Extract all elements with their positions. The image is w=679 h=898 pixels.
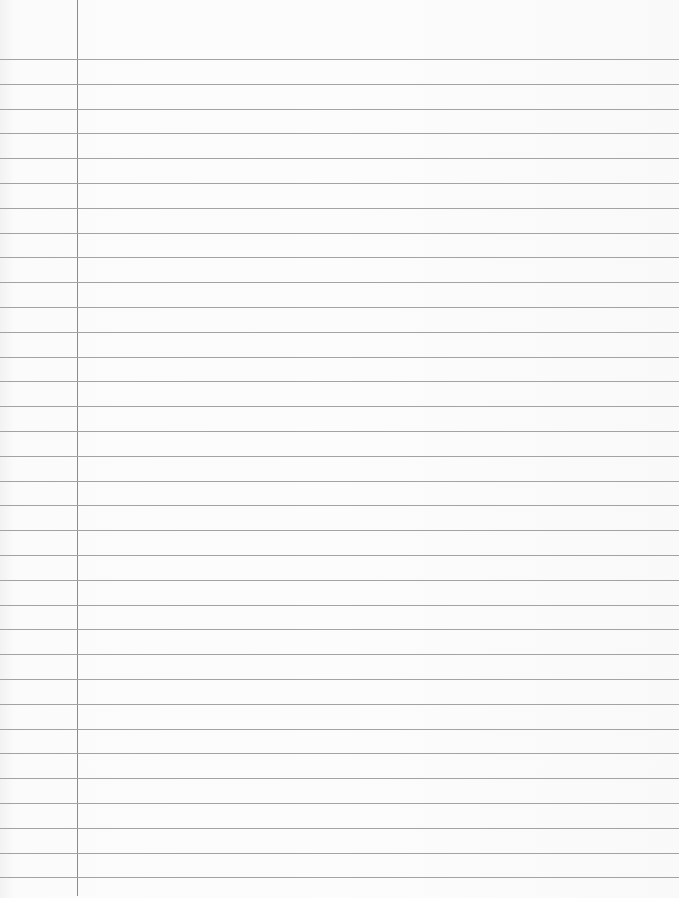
rule-line xyxy=(0,431,679,432)
rule-line xyxy=(0,332,679,333)
rule-line xyxy=(0,729,679,730)
rule-line xyxy=(0,555,679,556)
rule-line xyxy=(0,357,679,358)
rule-line xyxy=(0,828,679,829)
rule-line xyxy=(0,158,679,159)
rule-line xyxy=(0,282,679,283)
rule-line xyxy=(0,530,679,531)
rule-line xyxy=(0,679,679,680)
rule-line xyxy=(0,109,679,110)
rule-line xyxy=(0,84,679,85)
rule-line xyxy=(0,183,679,184)
rule-line xyxy=(0,629,679,630)
rule-line xyxy=(0,481,679,482)
margin-line xyxy=(77,0,78,896)
rule-line xyxy=(0,208,679,209)
rule-line xyxy=(0,505,679,506)
rule-line xyxy=(0,654,679,655)
rule-line xyxy=(0,456,679,457)
rule-line xyxy=(0,605,679,606)
lined-paper xyxy=(0,0,679,898)
rule-line xyxy=(0,406,679,407)
rule-line xyxy=(0,704,679,705)
rule-line xyxy=(0,877,679,878)
rule-line xyxy=(0,778,679,779)
rule-line xyxy=(0,803,679,804)
rule-line xyxy=(0,381,679,382)
rule-line xyxy=(0,133,679,134)
rule-line xyxy=(0,59,679,60)
rule-line xyxy=(0,307,679,308)
rule-line xyxy=(0,233,679,234)
rule-line xyxy=(0,257,679,258)
rule-line xyxy=(0,853,679,854)
rule-line xyxy=(0,753,679,754)
rule-line xyxy=(0,580,679,581)
